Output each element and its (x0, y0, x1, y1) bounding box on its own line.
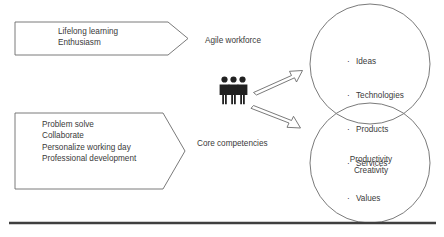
core-competencies-banner-text: Problem solve Collaborate Personalize wo… (42, 119, 136, 165)
list-item-label: Technologies (356, 91, 404, 100)
list-item: ·Technologies (347, 90, 404, 101)
outcomes-circle-text: Productivity Creativity (341, 154, 401, 177)
core-competencies-label: Core competencies (197, 138, 268, 149)
outputs-circle-list: ·Ideas ·Technologies ·Products ·Services… (347, 33, 404, 227)
list-item: ·Ideas (347, 56, 404, 67)
bullet-icon: · (347, 124, 356, 135)
bullet-icon: · (347, 56, 356, 67)
agile-workforce-label: Agile workforce (205, 35, 261, 46)
bullet-icon: · (347, 193, 356, 204)
diagram-canvas: Lifelong learning Enthusiasm Problem sol… (0, 0, 444, 237)
lifelong-learning-banner-text: Lifelong learning Enthusiasm (58, 26, 118, 49)
list-item-label: Values (356, 194, 380, 203)
list-item-label: Ideas (356, 57, 376, 66)
list-item-label: Products (356, 125, 388, 134)
bullet-icon: · (347, 90, 356, 101)
list-item: ·Products (347, 124, 404, 135)
arrow-to-outputs (254, 71, 303, 96)
three-people-icon (220, 76, 248, 104)
arrow-to-outcomes (251, 106, 301, 129)
list-item: ·Values (347, 193, 404, 204)
